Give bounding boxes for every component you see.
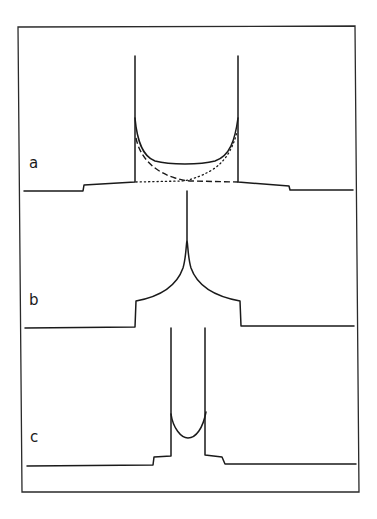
- panel-c-bowl: [171, 412, 206, 438]
- panel-label-a: a: [29, 154, 38, 172]
- panel-a-solid-envelope: [135, 118, 238, 164]
- panel-label-c: c: [30, 428, 38, 446]
- panel-c-spectrum-outline: [27, 328, 356, 466]
- panel-b-spectrum: [25, 191, 354, 328]
- panel-a-spectrum-outline: [24, 56, 353, 191]
- panel-c: c: [27, 328, 356, 466]
- panel-a: a: [24, 56, 353, 191]
- panel-b: b: [25, 191, 354, 328]
- spectra-figure: a b c: [0, 0, 377, 519]
- panel-label-b: b: [29, 291, 39, 309]
